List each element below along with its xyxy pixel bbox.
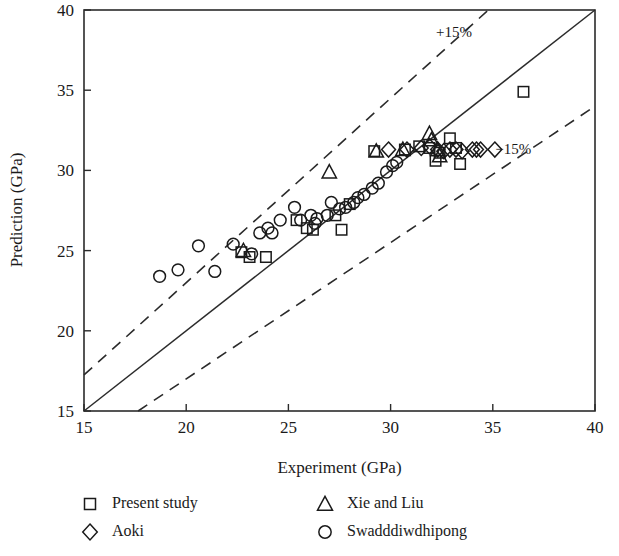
y-tick-label-35: 35 bbox=[57, 81, 74, 100]
data-point bbox=[336, 224, 347, 235]
y-tick-label-40: 40 bbox=[57, 1, 74, 20]
data-point bbox=[154, 270, 166, 282]
legend-label-present-study: Present study bbox=[112, 494, 198, 512]
x-axis-ticks: 152025303540 bbox=[76, 404, 604, 437]
chart-legend: Present studyAokiXie and LiuSwadddiwdhip… bbox=[83, 494, 467, 540]
data-point bbox=[470, 142, 484, 157]
legend-marker-triangle bbox=[318, 496, 333, 510]
legend-marker-circle bbox=[319, 526, 331, 538]
legend-marker-diamond bbox=[83, 524, 98, 540]
data-point bbox=[193, 240, 205, 252]
annotation-label: +15% bbox=[436, 24, 472, 40]
x-tick-label-25: 25 bbox=[280, 418, 297, 437]
data-point bbox=[455, 159, 466, 170]
legend-label-swadddiwdhipong: Swadddiwdhipong bbox=[347, 522, 467, 540]
data-point bbox=[322, 165, 336, 178]
data-point bbox=[246, 248, 258, 260]
y-tick-label-20: 20 bbox=[57, 322, 74, 341]
legend-label-aoki: Aoki bbox=[112, 522, 145, 539]
data-point bbox=[518, 87, 529, 98]
y-tick-label-15: 15 bbox=[57, 402, 74, 421]
data-point bbox=[382, 142, 396, 157]
x-tick-label-40: 40 bbox=[587, 418, 604, 437]
legend-label-xie-and-liu: Xie and Liu bbox=[347, 494, 423, 511]
x-tick-label-30: 30 bbox=[382, 418, 399, 437]
data-point bbox=[261, 252, 272, 262]
annotation-label: −15% bbox=[495, 141, 531, 157]
data-point bbox=[209, 266, 221, 278]
x-axis-title: Experiment (GPa) bbox=[277, 458, 401, 477]
data-point bbox=[274, 214, 286, 226]
y-axis-ticks: 152025303540 bbox=[57, 1, 91, 421]
series-swadddiwdhipong bbox=[154, 157, 403, 283]
reference-line-plus15 bbox=[84, 10, 488, 375]
x-tick-label-20: 20 bbox=[178, 418, 195, 437]
legend-marker-square bbox=[85, 499, 96, 510]
chart-annotations: +15%−15% bbox=[436, 24, 531, 157]
y-axis-title: Prediction (GPa) bbox=[7, 153, 26, 268]
data-point bbox=[289, 201, 301, 213]
data-point bbox=[325, 197, 337, 209]
y-tick-label-25: 25 bbox=[57, 242, 74, 261]
y-tick-label-30: 30 bbox=[57, 161, 74, 180]
series-present-study bbox=[236, 87, 529, 263]
scatter-plot-svg: 152025303540 152025303540 +15%−15% Exper… bbox=[0, 0, 619, 556]
data-point bbox=[474, 142, 488, 157]
data-points bbox=[154, 87, 529, 283]
x-tick-label-35: 35 bbox=[484, 418, 501, 437]
x-tick-label-15: 15 bbox=[76, 418, 93, 437]
data-point bbox=[172, 264, 184, 276]
chart-figure: 152025303540 152025303540 +15%−15% Exper… bbox=[0, 0, 619, 556]
